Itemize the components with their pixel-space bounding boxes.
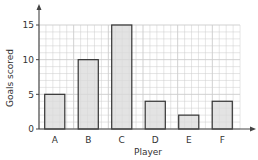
y-tick-labels: 051015 — [23, 20, 39, 134]
y-tick-label: 5 — [28, 90, 34, 100]
y-axis-label: Goals scored — [5, 49, 15, 107]
y-axis-arrow-icon — [37, 4, 42, 10]
x-tick-labels: ABCDEF — [52, 135, 225, 145]
y-tick-label: 15 — [23, 20, 34, 30]
x-axis-label: Player — [134, 147, 162, 157]
bars — [45, 25, 233, 129]
bar-f — [212, 101, 232, 129]
x-tick-label: C — [119, 135, 125, 145]
x-tick-label: E — [186, 135, 192, 145]
x-tick-label: D — [152, 135, 159, 145]
x-tick-label: F — [220, 135, 225, 145]
x-axis-arrow-icon — [250, 127, 256, 132]
bar-e — [179, 115, 199, 129]
y-tick-label: 0 — [28, 124, 34, 134]
x-tick-label: B — [85, 135, 91, 145]
bar-c — [112, 25, 132, 129]
bar-a — [45, 94, 65, 129]
bar-b — [78, 60, 98, 129]
grid — [39, 25, 240, 129]
bar-chart: 051015 ABCDEF Goals scored Player — [0, 0, 258, 160]
y-tick-label: 10 — [23, 55, 35, 65]
x-tick-label: A — [52, 135, 59, 145]
bar-d — [145, 101, 165, 129]
